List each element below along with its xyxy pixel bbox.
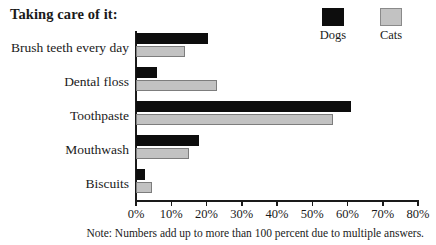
bar-dogs-3 (136, 135, 199, 146)
bar-group-toothpaste: Toothpaste (136, 99, 418, 133)
bar-dogs-1 (136, 67, 157, 78)
x-tick-6 (347, 201, 349, 206)
chart-page: Taking care of it: Dogs Cats Brush teeth… (0, 0, 436, 245)
bar-dogs-4 (136, 169, 145, 180)
category-label-0: Brush teeth every day (11, 38, 129, 58)
x-tick-1 (171, 201, 173, 206)
page-title: Taking care of it: (10, 6, 118, 23)
category-label-1: Dental floss (64, 72, 129, 92)
x-tick-label-6: 60% (336, 207, 359, 221)
bar-group-mouthwash: Mouthwash (136, 133, 418, 167)
x-tick-label-4: 40% (266, 207, 289, 221)
x-tick-2 (206, 201, 208, 206)
bar-group-brush-teeth-every-day: Brush teeth every day (136, 31, 418, 65)
category-label-3: Mouthwash (65, 140, 129, 160)
x-tick-label-5: 50% (301, 207, 324, 221)
bar-cats-3 (136, 148, 189, 159)
bar-group-dental-floss: Dental floss (136, 65, 418, 99)
x-tick-3 (241, 201, 243, 206)
bar-cats-1 (136, 80, 217, 91)
x-tick-label-8: 80% (407, 207, 430, 221)
bar-dogs-0 (136, 33, 208, 44)
x-tick-label-7: 70% (371, 207, 394, 221)
bar-dogs-2 (136, 101, 351, 112)
bar-group-biscuits: Biscuits (136, 167, 418, 201)
x-tick-0 (135, 201, 137, 206)
plot-area: Brush teeth every day Dental floss Tooth… (136, 31, 418, 201)
x-tick-label-2: 20% (195, 207, 218, 221)
x-tick-label-0: 0% (128, 207, 145, 221)
x-tick-7 (382, 201, 384, 206)
x-tick-label-3: 30% (230, 207, 253, 221)
legend-swatch-cats-icon (380, 8, 402, 26)
x-tick-5 (312, 201, 314, 206)
category-label-4: Biscuits (85, 174, 129, 194)
bar-cats-0 (136, 46, 185, 57)
bar-cats-2 (136, 114, 333, 125)
chart-note: Note: Numbers add up to more than 100 pe… (0, 227, 436, 240)
x-tick-label-1: 10% (160, 207, 183, 221)
bar-cats-4 (136, 182, 152, 193)
category-label-2: Toothpaste (70, 106, 129, 126)
legend-swatch-dogs-icon (322, 8, 344, 26)
x-tick-4 (276, 201, 278, 206)
x-tick-8 (417, 201, 419, 206)
